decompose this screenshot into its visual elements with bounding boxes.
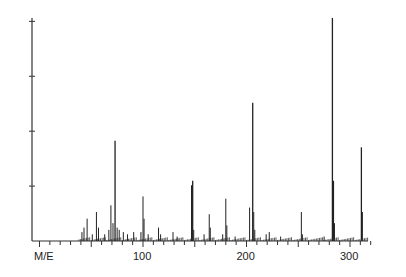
x-tick-label: 200 — [237, 250, 255, 262]
x-tick-label: 100 — [133, 250, 151, 262]
x-axis-label: M/E — [34, 250, 54, 262]
x-tick-label: 300 — [340, 250, 358, 262]
mass-spectrum-plot — [0, 0, 406, 277]
